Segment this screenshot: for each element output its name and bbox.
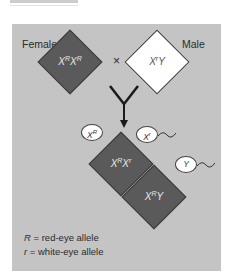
sperm-tail-icon — [157, 128, 177, 140]
divider — [10, 5, 78, 6]
sperm-tail-icon — [196, 158, 216, 170]
legend-row-red: R = red-eye allele — [24, 232, 99, 243]
cross-symbol: × — [113, 54, 120, 68]
male-genotype: XrY — [137, 55, 177, 67]
diagram-panel: Female Male XRXR × XrY XRXr XRY XR Xr Y … — [12, 24, 221, 271]
female-genotype: XRXR — [50, 55, 90, 67]
legend-row-white: r = white-eye allele — [24, 246, 103, 257]
egg-gamete: XR — [81, 124, 103, 141]
cropped-text-line — [10, 0, 78, 3]
offspring-genotype-male: XRY — [134, 190, 174, 202]
sperm-gamete-xr: Xr — [136, 126, 158, 143]
sperm-gamete-y: Y — [175, 156, 197, 173]
offspring-genotype-female: XRXr — [101, 157, 141, 169]
male-label: Male — [182, 38, 205, 50]
